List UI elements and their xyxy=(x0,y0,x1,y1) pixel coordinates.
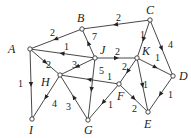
edge-weight: 2 xyxy=(132,103,137,114)
edge-weight: 1 xyxy=(155,52,160,63)
edge-weight: 2 xyxy=(115,46,120,57)
node-label: C xyxy=(146,3,155,17)
node-G xyxy=(86,118,90,122)
node-label: H xyxy=(40,75,51,89)
node-I xyxy=(30,117,34,121)
edge-weight: 1 xyxy=(168,89,173,100)
node-K xyxy=(135,56,139,60)
arrow-icon xyxy=(44,94,49,99)
edge-weight: 5 xyxy=(99,65,104,76)
node-label: F xyxy=(116,89,125,103)
edge-weight: 2 xyxy=(50,27,55,38)
node-J xyxy=(93,56,97,60)
edge-weight: 4 xyxy=(168,39,173,50)
edge-weight: 1 xyxy=(64,41,69,52)
edge-weight: 1 xyxy=(107,71,112,82)
edge-weight: 2 xyxy=(116,12,121,23)
edge-weight: 2 xyxy=(46,59,51,70)
edge-weight: 1 xyxy=(140,29,145,40)
node-E xyxy=(146,110,150,114)
node-B xyxy=(80,27,84,31)
arrow-icon xyxy=(159,91,164,96)
graph-diagram: 21212714235211112143 ABCDEFGHIJK xyxy=(0,0,191,138)
node-label: B xyxy=(77,11,85,25)
edge-weight: 2 xyxy=(122,61,127,72)
node-H xyxy=(58,73,62,77)
edge-weight: 1 xyxy=(18,78,23,89)
arrow-icon xyxy=(72,95,77,100)
node-label: G xyxy=(84,123,93,137)
node-D xyxy=(171,74,175,78)
node-label: D xyxy=(178,69,188,83)
node-C xyxy=(148,18,152,22)
arrow-icon xyxy=(87,78,92,82)
arrow-icon xyxy=(90,87,94,92)
arrow-icon xyxy=(60,52,65,56)
node-label: J xyxy=(100,43,106,57)
arrow-icon xyxy=(29,82,33,87)
edge-weight: 3 xyxy=(72,59,77,70)
node-label: I xyxy=(28,123,34,137)
node-label: E xyxy=(143,117,152,131)
node-A xyxy=(28,47,32,51)
node-label: A xyxy=(7,42,16,56)
edge-weight: 7 xyxy=(92,31,97,42)
edge-weight: 1 xyxy=(143,79,148,90)
node-label: K xyxy=(141,44,151,58)
edge-weight: 3 xyxy=(66,101,71,112)
edge-weight: 1 xyxy=(108,99,113,110)
edge-weight: 4 xyxy=(52,98,57,109)
node-F xyxy=(117,82,121,86)
